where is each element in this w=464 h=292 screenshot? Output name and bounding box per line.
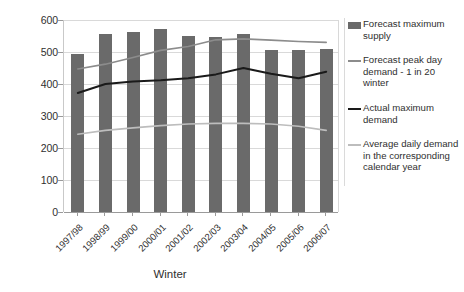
line-series: [78, 123, 326, 134]
legend-line-swatch-icon: [348, 108, 361, 110]
chart-legend: Forecast maximum supplyForecast peak day…: [344, 18, 460, 186]
x-tick-mark: [215, 212, 216, 216]
x-tick-mark: [104, 212, 105, 216]
x-tick-mark: [77, 212, 78, 216]
y-tick-label: 600: [18, 14, 58, 26]
y-tick-label: 300: [18, 110, 58, 122]
y-tick-label: 100: [18, 174, 58, 186]
legend-label: Forecast maximum supply: [363, 18, 460, 41]
line-series: [78, 68, 326, 93]
legend-item[interactable]: Forecast peak day demand - 1 in 20 winte…: [345, 54, 460, 89]
legend-line-swatch-icon: [348, 144, 361, 146]
y-tick-label: 400: [18, 78, 58, 90]
y-tick-label: 500: [18, 46, 58, 58]
y-tick-mark: [58, 212, 63, 213]
line-series-layer: [64, 20, 340, 212]
x-tick-mark: [298, 212, 299, 216]
legend-item[interactable]: Actual maximum demand: [345, 102, 460, 125]
y-tick-label: 200: [18, 142, 58, 154]
line-series: [78, 39, 326, 69]
legend-item[interactable]: Average daily demand in the correspondin…: [345, 138, 460, 173]
x-tick-mark: [160, 212, 161, 216]
y-tick-label: 0: [18, 206, 58, 218]
x-tick-mark: [325, 212, 326, 216]
x-tick-mark: [242, 212, 243, 216]
x-tick-mark: [270, 212, 271, 216]
legend-label: Actual maximum demand: [363, 102, 460, 125]
legend-bar-swatch-icon: [348, 22, 361, 29]
x-tick-mark: [187, 212, 188, 216]
legend-label: Forecast peak day demand - 1 in 20 winte…: [363, 54, 460, 89]
legend-item[interactable]: Forecast maximum supply: [345, 18, 460, 41]
chart-container: mcm/d 0100200300400500600 1997/981998/99…: [0, 0, 464, 292]
legend-label: Average daily demand in the correspondin…: [363, 138, 460, 173]
x-tick-mark: [132, 212, 133, 216]
plot-area: [63, 20, 339, 212]
x-axis-title: Winter: [0, 268, 340, 280]
legend-line-swatch-icon: [348, 60, 361, 62]
